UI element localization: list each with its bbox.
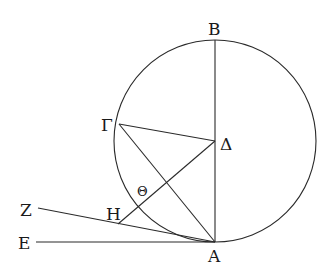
- label-Gamma: Γ: [101, 115, 113, 135]
- label-B: B: [208, 19, 221, 39]
- geometry-diagram: B Γ Δ Θ Z H E A: [0, 0, 328, 273]
- label-E: E: [18, 233, 30, 253]
- label-Theta: Θ: [137, 184, 148, 199]
- label-Delta: Δ: [220, 134, 232, 154]
- segment-ZA: [38, 208, 215, 242]
- segment-HD: [118, 141, 215, 224]
- label-Z: Z: [20, 200, 32, 220]
- segment-GD: [119, 124, 215, 141]
- label-H: H: [106, 204, 121, 224]
- segment-GA: [119, 124, 215, 242]
- label-A: A: [207, 246, 221, 266]
